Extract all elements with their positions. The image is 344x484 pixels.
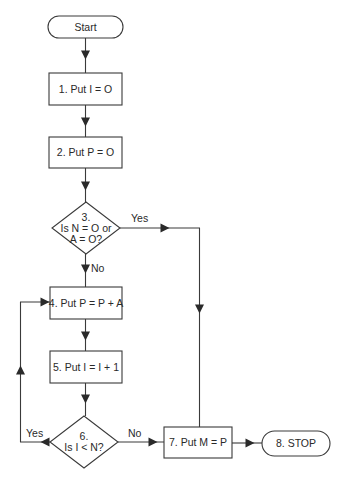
arrow-down-icon [81,118,90,127]
arrow-down-icon [81,332,90,341]
edge-n2-to-n3 [81,168,90,202]
connector-line [120,228,200,427]
node-text: 4. Put P = P + A [49,297,123,309]
node-text: 5. Put I = I + 1 [53,361,119,373]
arrow-down-icon [81,395,90,404]
edge-label-yes: Yes [26,427,43,439]
arrow-right-icon [246,439,255,448]
node-text: Is I < N? [64,441,104,453]
connector-line [21,302,51,442]
arrow-up-icon [16,366,25,375]
node-n8-terminal: 8. STOP [262,431,330,456]
edge-label-no: No [91,262,105,274]
node-n4-process: 4. Put P = P + A [49,287,123,319]
arrow-down-icon [81,51,90,60]
node-text: Start [74,21,96,33]
node-text: 8. STOP [276,437,316,449]
edge-label-no: No [128,427,142,439]
nodes-layer: Start1. Put I = O2. Put P = O3.Is N = O … [48,16,330,468]
arrow-down-icon [81,182,90,191]
node-text: A = O? [70,233,103,245]
arrow-right-icon [161,224,170,233]
node-n5-process: 5. Put I = I + 1 [50,351,122,383]
edge-start-to-n1 [81,38,90,73]
arrow-down-icon [195,305,204,314]
node-n2-process: 2. Put P = O [49,137,122,168]
edge-n1-to-n2 [81,105,90,137]
node-n1-process: 1. Put I = O [49,73,122,105]
arrow-down-icon [81,265,90,274]
node-n7-process: 7. Put M = P [164,427,232,458]
node-n6-decision: 6.Is I < N? [50,416,118,468]
edge-n3-to-n4 [81,254,90,287]
edge-n4-to-n5 [81,319,90,351]
edge-label-yes: Yes [131,212,148,224]
node-text: 7. Put M = P [169,436,227,448]
node-text: 2. Put P = O [57,146,114,158]
edge-n6-to-n4 [16,298,50,447]
node-start-terminal: Start [48,16,123,38]
node-text: 1. Put I = O [59,83,112,95]
flowchart-canvas: Start1. Put I = O2. Put P = O3.Is N = O … [0,0,344,484]
edge-n3-to-n7 [120,224,204,428]
edge-n5-to-n6 [81,383,90,416]
edge-n7-to-n8 [232,439,262,448]
arrow-right-icon [149,438,158,447]
node-n3-decision: 3.Is N = O orA = O? [52,202,120,254]
